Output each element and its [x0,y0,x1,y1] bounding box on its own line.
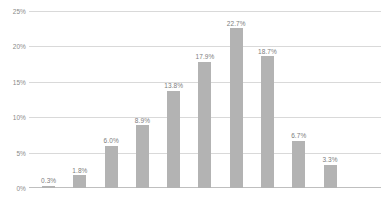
bar-value-label: 3.3% [322,156,337,163]
bar[interactable]: 22.7% [230,28,243,188]
bar-slot [346,11,377,188]
bar-value-label: 18.7% [258,48,277,55]
bar-value-label: 13.8% [164,82,183,89]
bar[interactable]: 6.7% [292,141,305,188]
bar[interactable]: 18.7% [261,56,274,188]
bar-slot: 6.0% [96,11,127,188]
y-tick-label: 10% [0,114,26,121]
y-tick-label: 25% [0,8,26,15]
bar-slot: 6.7% [283,11,314,188]
y-tick-label: 0% [0,185,26,192]
y-tick-label: 15% [0,78,26,85]
bar[interactable]: 1.8% [73,175,86,188]
bar[interactable]: 6.0% [105,146,118,188]
bar-value-label: 1.8% [72,167,87,174]
bar-value-label: 6.7% [291,132,306,139]
bar-slot: 13.8% [158,11,189,188]
bar-slot: 22.7% [221,11,252,188]
bar-slot: 18.7% [252,11,283,188]
plot-area: 0.3% 1.8% 6.0% 8.9% 13.8% [29,11,381,188]
bar-slot: 1.8% [64,11,95,188]
bar-chart: 25% 20% 15% 10% 5% 0% 0.3% 1.8% [0,0,384,207]
bar-series: 0.3% 1.8% 6.0% 8.9% 13.8% [29,11,381,188]
y-tick-label: 20% [0,43,26,50]
bar[interactable]: 0.3% [42,186,55,188]
bar-slot: 3.3% [314,11,345,188]
bar-value-label: 6.0% [104,137,119,144]
bar-slot: 8.9% [127,11,158,188]
bar[interactable]: 17.9% [198,62,211,188]
bar-slot: 17.9% [189,11,220,188]
bar-value-label: 8.9% [135,117,150,124]
bar[interactable]: 13.8% [167,91,180,188]
bar[interactable]: 8.9% [136,125,149,188]
bar[interactable]: 3.3% [324,165,337,188]
bar-value-label: 17.9% [195,53,214,60]
y-tick-label: 5% [0,149,26,156]
bar-value-label: 0.3% [41,177,56,184]
bar-value-label: 22.7% [227,20,246,27]
bar-slot: 0.3% [33,11,64,188]
